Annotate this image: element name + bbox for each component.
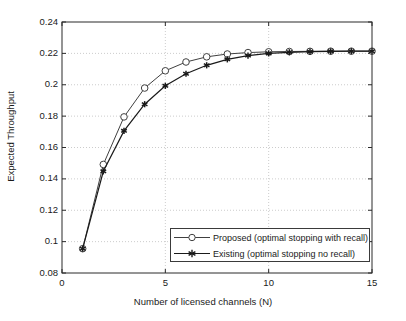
x-axis-label: Number of licensed channels (N): [0, 296, 406, 307]
x-tick-label: 5: [145, 277, 185, 288]
legend-marker-circle-open-icon: [171, 229, 213, 246]
y-tick-label: 0.08: [18, 267, 58, 278]
data-point: [203, 54, 210, 61]
x-tick-label: 10: [249, 277, 289, 288]
x-tick-label: 0: [42, 277, 82, 288]
y-tick-label: 0.14: [18, 172, 58, 183]
y-tick-label: 0.2: [18, 78, 58, 89]
legend-label-existing: Existing (optimal stopping no recall): [213, 249, 355, 259]
legend-marker-star-filled-icon: [171, 245, 213, 262]
y-axis-label: Expected Throughput: [5, 91, 16, 182]
chart-plot-area: [0, 0, 406, 321]
series-proposed: [79, 48, 375, 252]
y-tick-label: 0.16: [18, 141, 58, 152]
legend: Proposed (optimal stopping with recall) …: [170, 228, 370, 262]
x-tick-label: 15: [352, 277, 392, 288]
y-tick-label: 0.18: [18, 110, 58, 121]
y-tick-label: 0.24: [18, 16, 58, 27]
legend-label-proposed: Proposed (optimal stopping with recall): [213, 233, 368, 243]
data-point: [162, 67, 169, 74]
data-point: [141, 85, 148, 92]
y-tick-label: 0.1: [18, 235, 58, 246]
legend-item-existing: Existing (optimal stopping no recall): [171, 245, 355, 262]
y-tick-label: 0.22: [18, 47, 58, 58]
data-point: [183, 71, 189, 77]
data-point: [121, 114, 128, 121]
y-axis-label-container: Expected Throughput: [2, 0, 18, 273]
legend-item-proposed: Proposed (optimal stopping with recall): [171, 229, 368, 246]
series-existing: [80, 48, 375, 252]
y-tick-label: 0.12: [18, 204, 58, 215]
data-point: [183, 59, 190, 66]
figure-canvas: Expected Throughput Number of licensed c…: [0, 0, 406, 321]
